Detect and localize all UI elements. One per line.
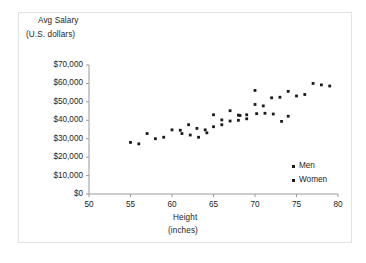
chart-plot-area — [0, 0, 366, 263]
data-point — [287, 115, 290, 118]
data-point — [279, 96, 282, 99]
data-point — [312, 82, 315, 85]
data-point — [154, 137, 157, 140]
y-axis-tick-label: $60,000 — [29, 78, 83, 87]
data-point — [287, 90, 290, 93]
legend-marker-men-icon — [292, 165, 295, 168]
data-point — [303, 93, 306, 96]
y-axis-tick-label: $50,000 — [29, 97, 83, 106]
data-point — [255, 112, 258, 115]
data-point — [239, 114, 242, 117]
data-point — [212, 125, 215, 128]
data-point — [254, 89, 257, 92]
data-point — [245, 113, 248, 116]
data-point — [295, 95, 298, 98]
y-axis-tick-label: $40,000 — [29, 115, 83, 124]
x-axis-tick-label: 70 — [240, 200, 270, 209]
data-point — [205, 131, 208, 134]
data-point — [280, 120, 283, 123]
data-point — [320, 84, 323, 87]
data-point — [196, 127, 199, 130]
data-point — [129, 141, 132, 144]
data-point — [146, 132, 149, 135]
y-axis-tick-label: $20,000 — [29, 152, 83, 161]
data-point — [197, 136, 200, 139]
data-point — [137, 142, 140, 145]
legend-marker-women-icon — [292, 179, 295, 182]
data-point — [212, 113, 215, 116]
data-point — [254, 103, 257, 106]
x-axis-tick-label: 60 — [157, 200, 187, 209]
data-points-layer — [129, 82, 331, 145]
data-point — [220, 119, 223, 122]
data-point — [181, 132, 184, 135]
data-point — [204, 128, 207, 131]
data-point — [162, 136, 165, 139]
x-axis-title-line-2: (inches) — [168, 226, 198, 235]
x-axis-tick-label: 65 — [199, 200, 229, 209]
x-axis-tick-label: 55 — [116, 200, 146, 209]
x-axis-tick-label: 50 — [74, 200, 104, 209]
data-point — [171, 128, 174, 131]
y-axis-tick-label: $70,000 — [29, 60, 83, 69]
y-axis-tick-label: $0 — [29, 189, 83, 198]
data-point — [220, 123, 223, 126]
y-axis-tick-label: $10,000 — [29, 171, 83, 180]
y-axis-title-line-2: (U.S. dollars) — [26, 30, 75, 39]
data-point — [272, 113, 275, 116]
data-point — [237, 119, 240, 122]
data-point — [187, 123, 190, 126]
x-axis-tick-label: 80 — [323, 200, 353, 209]
data-point — [262, 105, 265, 108]
data-point — [229, 120, 232, 123]
x-axis-tick-label: 75 — [282, 200, 312, 209]
y-axis-title-line-1: Avg Salary — [38, 16, 78, 25]
data-point — [328, 85, 331, 88]
x-axis-title-line-1: Height — [173, 213, 197, 222]
legend-label-women: Women — [299, 175, 327, 184]
data-point — [270, 96, 273, 99]
y-axis-tick-label: $30,000 — [29, 134, 83, 143]
data-point — [189, 134, 192, 137]
data-point — [179, 129, 182, 132]
data-point — [245, 117, 248, 120]
legend-label-men: Men — [299, 161, 315, 170]
data-point — [264, 112, 267, 115]
data-point — [229, 109, 232, 112]
